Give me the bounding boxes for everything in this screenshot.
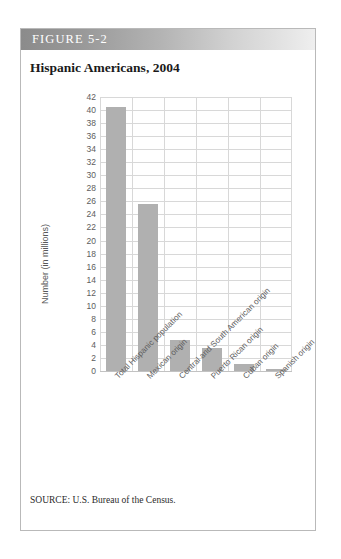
y-tick-label-22: 22 — [87, 223, 96, 232]
gridline-x-1 — [132, 97, 133, 371]
y-tick-label-34: 34 — [87, 145, 96, 154]
y-tick-label-20: 20 — [87, 236, 96, 245]
y-tick-label-0: 0 — [91, 367, 96, 376]
y-tick-label-6: 6 — [91, 328, 96, 337]
y-tick-label-4: 4 — [91, 341, 96, 350]
gridline-x-3 — [196, 97, 197, 371]
y-tick-label-28: 28 — [87, 184, 96, 193]
gridline-x-6 — [291, 97, 292, 371]
bar — [106, 107, 126, 371]
gridline-x-0 — [100, 97, 101, 371]
y-tick-label-38: 38 — [87, 119, 96, 128]
plot-area: 024681012141618202224262830323436384042 … — [100, 97, 292, 371]
y-tick-label-42: 42 — [87, 93, 96, 102]
y-tick-label-12: 12 — [87, 288, 96, 297]
figure-source-note: SOURCE: U.S. Bureau of the Census. — [30, 495, 176, 505]
y-tick-label-2: 2 — [91, 354, 96, 363]
figure-header-bar: FIGURE 5-2 — [21, 29, 315, 50]
y-tick-label-14: 14 — [87, 275, 96, 284]
y-tick-label-40: 40 — [87, 106, 96, 115]
y-tick-label-30: 30 — [87, 171, 96, 180]
y-axis-title: Number (in millions) — [40, 189, 50, 339]
y-tick-label-36: 36 — [87, 132, 96, 141]
y-tick-label-26: 26 — [87, 197, 96, 206]
chart-region: Number (in millions) 0246810121416182022… — [21, 89, 317, 479]
y-tick-label-16: 16 — [87, 262, 96, 271]
figure-number-label: FIGURE 5-2 — [32, 32, 108, 47]
y-tick-label-8: 8 — [91, 315, 96, 324]
figure-box: FIGURE 5-2 Hispanic Americans, 2004 Numb… — [20, 28, 316, 531]
y-tick-label-10: 10 — [87, 302, 96, 311]
figure-title: Hispanic Americans, 2004 — [30, 60, 180, 76]
y-tick-label-24: 24 — [87, 210, 96, 219]
y-tick-label-18: 18 — [87, 249, 96, 258]
y-tick-label-32: 32 — [87, 158, 96, 167]
